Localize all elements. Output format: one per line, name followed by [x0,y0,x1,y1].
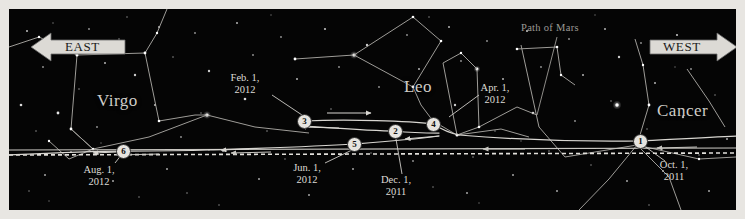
marker-6[interactable]: 6 [116,144,131,159]
constellation-leo [295,17,537,137]
path-of-mars-leader [537,37,557,115]
mars-path-arrows [93,113,439,153]
marker-4[interactable]: 4 [426,117,441,132]
marker-5[interactable]: 5 [347,137,362,152]
marker-2[interactable]: 2 [388,124,403,139]
marker-1[interactable]: 1 [633,134,648,149]
east-direction-banner: EAST [31,32,126,62]
sky-panel: 1 2 3 4 5 6 Virgo Leo Cancer Path of Mar… [9,9,736,210]
west-arrow-icon [649,32,736,62]
west-direction-banner: WEST [649,32,736,62]
cancer-stars [516,46,701,161]
marker-3[interactable]: 3 [297,114,312,129]
east-arrow-icon [31,32,126,62]
star-chart: 1 2 3 4 5 6 Virgo Leo Cancer Path of Mar… [0,0,745,219]
